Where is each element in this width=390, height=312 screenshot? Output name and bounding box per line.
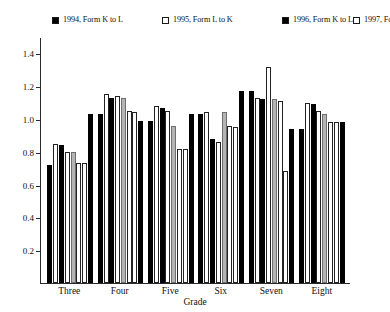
bar: [227, 126, 232, 283]
bar: [154, 106, 159, 283]
bar-group: [45, 38, 95, 283]
y-axis-tick: [36, 186, 41, 187]
chart-legend: 1994, Form K to L1995, Form L to K1996, …: [52, 13, 282, 28]
y-axis-tick-label: 0.6: [23, 181, 34, 191]
legend-item-label: 1995, Form L to K: [173, 13, 233, 28]
bar: [82, 163, 87, 283]
bar: [132, 112, 137, 283]
y-axis-tick: [36, 87, 41, 88]
bar-group: [146, 38, 196, 283]
legend-item: 1995, Form L to K: [162, 13, 282, 28]
legend-item-label: 1994, Form K to L: [63, 13, 123, 28]
bar-group: [246, 38, 296, 283]
bar: [216, 142, 221, 283]
bar: [53, 144, 58, 283]
y-axis-tick: [36, 153, 41, 154]
bar: [316, 111, 321, 283]
bar: [71, 152, 76, 283]
bar: [272, 99, 277, 283]
bar: [222, 112, 227, 283]
bar: [278, 101, 283, 283]
bar: [233, 127, 238, 283]
plot-area: 1.41.21.00.80.60.40.2: [40, 38, 350, 284]
bar: [183, 149, 188, 283]
legend-item: 1996, Form K to L: [282, 13, 353, 28]
bar: [65, 152, 70, 283]
x-axis-title: Grade: [0, 297, 390, 307]
y-axis-tick: [36, 218, 41, 219]
legend-item-label: 1997, Form L to M: [364, 13, 390, 28]
y-axis-tick-label: 1.0: [23, 115, 34, 125]
bar-group: [196, 38, 246, 283]
bar: [255, 98, 260, 283]
bar: [76, 163, 81, 283]
bar: [115, 96, 120, 283]
bar: [189, 114, 194, 283]
y-axis-tick-label: 1.2: [23, 82, 34, 92]
y-axis-tick: [36, 120, 41, 121]
bar: [322, 114, 327, 283]
legend-item: 1994, Form K to L: [52, 13, 162, 28]
bar: [177, 149, 182, 283]
bar: [127, 111, 132, 283]
bar: [204, 112, 209, 283]
bar: [98, 114, 103, 283]
y-axis-tick-label: 0.4: [23, 213, 34, 223]
y-axis-tick-label: 0.8: [23, 148, 34, 158]
bar: [305, 103, 310, 283]
bar: [239, 91, 244, 283]
bar: [104, 94, 109, 283]
bar: [160, 108, 165, 283]
y-axis-tick: [36, 251, 41, 252]
bar-group: [297, 38, 347, 283]
bar: [266, 67, 271, 283]
bar: [328, 122, 333, 283]
bar: [121, 98, 126, 283]
legend-item-label: 1996, Form K to L: [293, 13, 353, 28]
bar: [109, 98, 114, 283]
bar: [249, 91, 254, 283]
bar-chart: 1994, Form K to L1995, Form L to K1996, …: [0, 0, 390, 312]
legend-swatch-icon: [162, 17, 169, 24]
bar: [260, 99, 265, 283]
y-axis-tick-label: 0.2: [23, 246, 34, 256]
bar-group: [95, 38, 145, 283]
bar: [340, 122, 345, 283]
bar: [299, 129, 304, 283]
bar: [165, 111, 170, 283]
legend-swatch-icon: [353, 17, 360, 24]
bar: [138, 121, 143, 283]
legend-swatch-icon: [52, 17, 59, 24]
bar: [171, 126, 176, 283]
legend-item: 1997, Form L to M: [353, 13, 390, 28]
bar: [334, 122, 339, 283]
bar: [47, 165, 52, 283]
bar: [198, 114, 203, 283]
y-axis-tick: [36, 54, 41, 55]
bar: [311, 104, 316, 283]
bar: [59, 145, 64, 283]
bar: [283, 171, 288, 283]
bar: [289, 129, 294, 283]
bar-groups: [41, 38, 350, 283]
bar: [148, 121, 153, 283]
bar: [88, 114, 93, 283]
y-axis-tick-label: 1.4: [23, 49, 34, 59]
legend-swatch-icon: [282, 17, 289, 24]
bar: [210, 139, 215, 283]
